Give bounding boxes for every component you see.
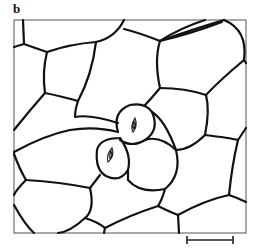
epidermis-drawing bbox=[0, 0, 258, 250]
scale-bar bbox=[187, 236, 233, 244]
cell-walls bbox=[14, 20, 246, 233]
